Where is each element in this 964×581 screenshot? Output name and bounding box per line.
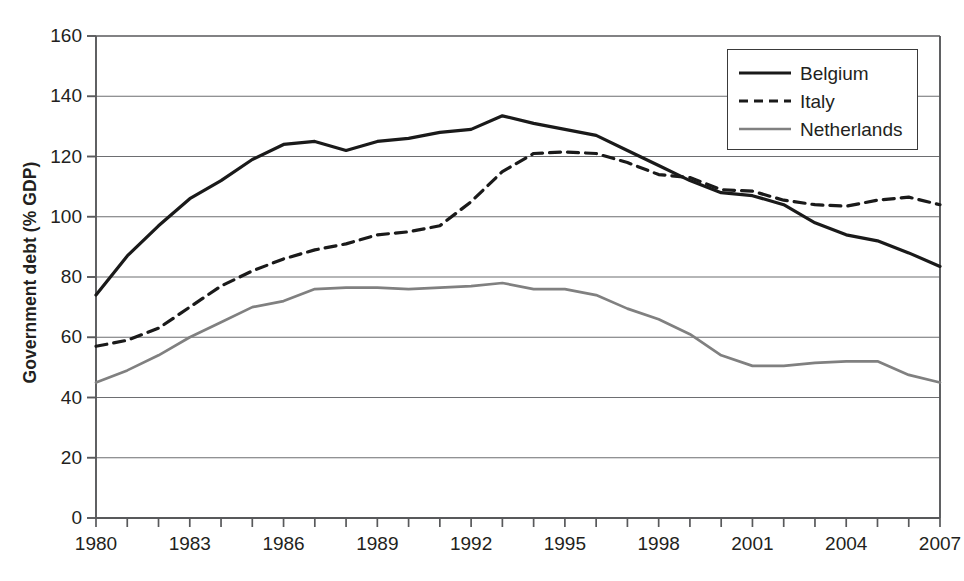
chart-legend: BelgiumItalyNetherlands <box>727 49 918 150</box>
series-line-netherlands <box>96 283 940 382</box>
government-debt-line-chart: Government debt (% GDP) 1601401201008060… <box>0 0 964 581</box>
legend-swatch-italy-icon <box>737 94 793 108</box>
legend-swatch-belgium-icon <box>737 66 793 80</box>
legend-item-netherlands[interactable]: Netherlands <box>737 115 902 143</box>
legend-label-belgium: Belgium <box>800 64 869 83</box>
legend-label-netherlands: Netherlands <box>800 120 902 139</box>
legend-label-italy: Italy <box>800 92 835 111</box>
legend-swatch-netherlands-icon <box>737 122 793 136</box>
legend-item-belgium[interactable]: Belgium <box>737 59 869 87</box>
legend-item-italy[interactable]: Italy <box>737 87 835 115</box>
